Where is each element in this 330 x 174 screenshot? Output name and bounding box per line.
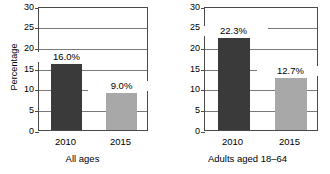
panel-caption-adults: Adults aged 18–64 bbox=[165, 154, 330, 164]
y-axis-tick bbox=[35, 28, 39, 29]
y-axis-tick-label: 10 bbox=[4, 85, 34, 94]
y-axis-tick bbox=[201, 111, 205, 112]
bar-chart-figure: Percentage All ages 05101520253016.0%201… bbox=[0, 0, 330, 174]
y-axis-tick-label: 20 bbox=[4, 44, 34, 53]
bar-all-ages-2015[interactable] bbox=[106, 93, 137, 130]
x-axis-label-all-ages-2015: 2015 bbox=[98, 137, 144, 147]
bar-value-label-adults-2015: 12.7% bbox=[257, 66, 325, 76]
y-axis-tick-label: 25 bbox=[170, 23, 200, 32]
x-axis-label-adults-2015: 2015 bbox=[267, 137, 313, 147]
chart-panel-adults: Adults aged 18–64 05101520253022.3%20101… bbox=[165, 0, 330, 174]
y-axis-tick bbox=[201, 132, 205, 133]
y-axis-tick-label: 15 bbox=[170, 65, 200, 74]
y-axis-tick bbox=[35, 49, 39, 50]
y-axis-tick-label: 25 bbox=[4, 23, 34, 32]
y-axis-tick-label: 10 bbox=[170, 85, 200, 94]
y-axis-tick bbox=[35, 90, 39, 91]
y-axis-tick bbox=[201, 70, 205, 71]
y-axis-tick-label: 30 bbox=[4, 3, 34, 12]
x-axis-label-all-ages-2010: 2010 bbox=[43, 137, 89, 147]
bar-adults-2015[interactable] bbox=[275, 78, 307, 130]
y-axis-tick bbox=[35, 70, 39, 71]
y-axis-tick-label: 0 bbox=[170, 127, 200, 136]
y-axis-tick bbox=[35, 111, 39, 112]
y-axis-tick bbox=[35, 8, 39, 9]
bar-value-label-adults-2010: 22.3% bbox=[200, 26, 268, 36]
y-axis-tick bbox=[201, 49, 205, 50]
y-axis-tick-label: 0 bbox=[4, 127, 34, 136]
x-axis-label-adults-2010: 2010 bbox=[210, 137, 256, 147]
y-axis-tick-label: 5 bbox=[170, 106, 200, 115]
bar-value-label-all-ages-2010: 16.0% bbox=[33, 52, 100, 62]
gridline bbox=[39, 49, 147, 50]
chart-panel-all-ages: Percentage All ages 05101520253016.0%201… bbox=[0, 0, 165, 174]
plot-area-all-ages bbox=[38, 7, 148, 131]
y-axis-tick bbox=[201, 8, 205, 9]
bar-adults-2010[interactable] bbox=[218, 38, 250, 130]
bar-all-ages-2010[interactable] bbox=[51, 64, 82, 130]
bar-value-label-all-ages-2015: 9.0% bbox=[88, 81, 155, 91]
y-axis-tick-label: 15 bbox=[4, 65, 34, 74]
y-axis-tick bbox=[35, 132, 39, 133]
y-axis-tick-label: 30 bbox=[170, 3, 200, 12]
y-axis-tick bbox=[201, 90, 205, 91]
panel-caption-all-ages: All ages bbox=[0, 154, 165, 164]
gridline bbox=[39, 28, 147, 29]
y-axis-tick-label: 20 bbox=[170, 44, 200, 53]
y-axis-tick-label: 5 bbox=[4, 106, 34, 115]
